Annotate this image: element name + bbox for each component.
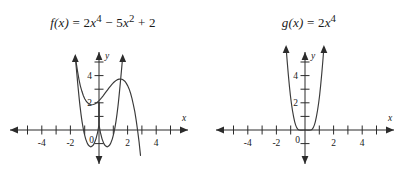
y-tick-label-2-right: 2 [293, 98, 298, 108]
equation-exp1-right: 4 [331, 12, 337, 24]
y-axis-arrow-left-down [96, 156, 103, 164]
equation-eq-left: = 2 [69, 15, 90, 30]
plot-svg-left: -4 -2 2 4 2 4 0 x y [0, 38, 206, 170]
origin-label-left: 0 [89, 135, 94, 145]
curve-f-right-half [99, 57, 123, 147]
equation-fx-right: g(x) [282, 15, 304, 30]
y-axis-arrow-right-up [302, 52, 309, 60]
x-axis-arrow-left-negative [10, 127, 18, 134]
x-axis-arrow-left-positive [180, 127, 188, 134]
y-axis-label-left: y [104, 51, 110, 61]
coordinate-plot-right: -4 -2 2 4 2 4 0 x y [206, 38, 412, 170]
x-tick-label-minus4-left: -4 [38, 138, 46, 148]
x-tick-label-minus2-left: -2 [66, 138, 74, 148]
x-axis-arrow-right-positive [386, 127, 394, 134]
y-axis-arrow-left-up [96, 52, 103, 60]
origin-label-right: 0 [295, 135, 300, 145]
x-tick-label-minus4-right: -4 [244, 138, 252, 148]
x-tick-label-2-right: 2 [331, 138, 336, 148]
y-axis-label-right: y [310, 51, 316, 61]
plot-svg-right: -4 -2 2 4 2 4 0 x y [206, 38, 412, 170]
equation-minus-left: − 5 [102, 15, 123, 30]
x-axis-arrow-right-negative [216, 127, 224, 134]
y-axis-arrow-right-down [302, 156, 309, 164]
equation-plus-left: + 2 [135, 15, 156, 30]
curve-g-arrow-right [321, 45, 328, 53]
plot-panel-right: g(x) = 2x4 [206, 0, 412, 173]
x-tick-label-4-right: 4 [360, 138, 365, 148]
x-axis-label-left: x [181, 113, 187, 123]
equation-fx-left: f(x) [50, 15, 69, 30]
curve-g-arrow-left [283, 45, 290, 53]
y-tick-label-4-left: 4 [87, 71, 92, 81]
x-axis-label-right: x [387, 113, 393, 123]
coordinate-plot-left: -4 -2 2 4 2 4 0 x y [0, 38, 206, 170]
x-tick-label-2-left: 2 [125, 138, 130, 148]
two-polynomial-graphs-figure: f(x) = 2x4 − 5x2 + 2 [0, 0, 412, 173]
curve-f-arrow-right [119, 54, 126, 62]
equation-title-right: g(x) = 2x4 [206, 12, 412, 31]
curve-f-arrow-left [72, 54, 79, 62]
curve-f-left [75, 57, 140, 156]
y-tick-label-4-right: 4 [293, 71, 298, 81]
equation-title-left: f(x) = 2x4 − 5x2 + 2 [0, 12, 206, 31]
x-tick-label-4-left: 4 [154, 138, 159, 148]
plot-panel-left: f(x) = 2x4 − 5x2 + 2 [0, 0, 206, 173]
x-tick-label-minus2-right: -2 [272, 138, 280, 148]
equation-eq-right: = 2 [303, 15, 324, 30]
